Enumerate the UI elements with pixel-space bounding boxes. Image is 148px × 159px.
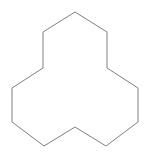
polygon-figure-svg bbox=[0, 0, 148, 159]
figure-canvas bbox=[0, 0, 148, 159]
tri-lobed-dodecagon-shape bbox=[12, 12, 138, 146]
